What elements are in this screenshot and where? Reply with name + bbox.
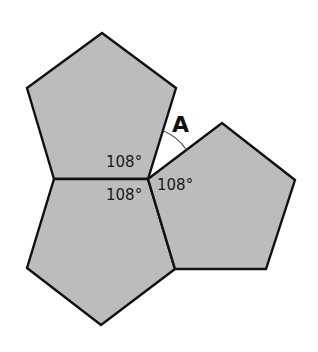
angle-label-right: 108° <box>157 176 193 194</box>
top-pentagon <box>27 33 176 179</box>
angle-label-bottom-left: 108° <box>106 186 142 204</box>
right-pentagon <box>148 123 295 269</box>
bottom-pentagon <box>27 179 175 325</box>
angle-label-top-left: 108° <box>106 153 142 171</box>
pentagon-diagram: A 108° 108° 108° <box>0 0 318 352</box>
angle-a-label: A <box>172 112 189 137</box>
